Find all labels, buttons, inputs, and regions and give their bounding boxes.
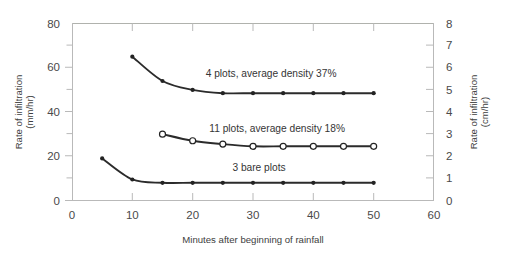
data-point-marker xyxy=(130,55,134,59)
xtick-label: 60 xyxy=(428,209,441,221)
y2tick-label: 2 xyxy=(446,150,452,162)
data-point-marker xyxy=(341,143,347,149)
y2tick-label: 8 xyxy=(446,18,452,30)
data-point-marker xyxy=(310,143,316,149)
data-point-marker xyxy=(191,88,195,92)
data-point-marker xyxy=(220,141,226,147)
data-point-marker xyxy=(311,181,315,185)
y2tick-label: 3 xyxy=(446,128,452,140)
y-axis-title: Rate of infiltration (mm/hr) xyxy=(13,75,35,150)
bottom-axis-ticks xyxy=(132,193,373,201)
plot-frame xyxy=(72,23,434,201)
y2-axis-title-line2: (cm/hr) xyxy=(479,97,490,127)
data-point-marker xyxy=(372,91,376,95)
data-point-marker xyxy=(280,143,286,149)
y2-axis-title-line1: Rate of infiltration xyxy=(468,75,479,150)
xtick-label: 30 xyxy=(247,209,260,221)
data-point-marker xyxy=(160,79,164,83)
data-point-marker xyxy=(341,181,345,185)
xtick-label: 40 xyxy=(307,209,320,221)
data-point-marker xyxy=(371,143,377,149)
y2tick-label: 0 xyxy=(446,195,452,207)
xtick-label: 20 xyxy=(186,209,199,221)
data-point-marker xyxy=(281,91,285,95)
y-axis-title-line2: (mm/hr) xyxy=(24,95,35,129)
data-point-marker xyxy=(221,181,225,185)
ytick-label: 80 xyxy=(47,18,60,30)
y2tick-label: 5 xyxy=(446,84,452,96)
data-point-marker xyxy=(281,181,285,185)
data-point-marker xyxy=(130,177,134,181)
chart-svg: 80 60 40 20 0 8 7 6 5 4 3 2 1 0 0 10 20 … xyxy=(0,0,517,262)
data-point-marker xyxy=(221,91,225,95)
ytick-label: 0 xyxy=(54,195,60,207)
series-annotations: 4 plots, average density 37% 11 plots, a… xyxy=(206,68,345,173)
xtick-label: 50 xyxy=(367,209,380,221)
series-label-3-bare-plots: 3 bare plots xyxy=(232,162,285,173)
data-point-marker xyxy=(251,181,255,185)
data-point-marker xyxy=(250,143,256,149)
xtick-label: 10 xyxy=(126,209,139,221)
x-axis-tick-labels: 0 10 20 30 40 50 60 xyxy=(69,209,441,221)
infiltration-rate-chart: 80 60 40 20 0 8 7 6 5 4 3 2 1 0 0 10 20 … xyxy=(0,0,517,262)
data-point-marker xyxy=(341,91,345,95)
right-axis-ticks xyxy=(426,45,434,200)
y2tick-label: 4 xyxy=(446,106,453,118)
data-point-marker xyxy=(160,131,166,137)
x-axis-title: Minutes after beginning of rainfall xyxy=(182,234,323,245)
data-point-marker xyxy=(311,91,315,95)
y2-axis-title: Rate of infiltration (cm/hr) xyxy=(468,75,490,150)
data-point-marker xyxy=(100,156,104,160)
ytick-label: 60 xyxy=(47,61,60,73)
xtick-label: 0 xyxy=(69,209,75,221)
data-point-marker xyxy=(251,91,255,95)
y2tick-label: 1 xyxy=(446,172,452,184)
y-axis-title-line1: Rate of infiltration xyxy=(13,75,24,150)
series-label-4-plots: 4 plots, average density 37% xyxy=(206,68,337,79)
ytick-label: 20 xyxy=(47,150,60,162)
data-point-marker xyxy=(160,181,164,185)
left-axis-ticks xyxy=(65,45,73,200)
series-label-11-plots: 11 plots, average density 18% xyxy=(209,123,345,134)
y2tick-label: 6 xyxy=(446,61,452,73)
ytick-label: 40 xyxy=(47,106,60,118)
top-axis-ticks xyxy=(132,24,373,32)
right-axis-tick-labels: 8 7 6 5 4 3 2 1 0 xyxy=(446,18,453,207)
left-axis-tick-labels: 80 60 40 20 0 xyxy=(47,18,60,207)
data-point-marker xyxy=(372,181,376,185)
data-point-marker xyxy=(191,181,195,185)
data-point-marker xyxy=(190,138,196,144)
y2tick-label: 7 xyxy=(446,39,452,51)
